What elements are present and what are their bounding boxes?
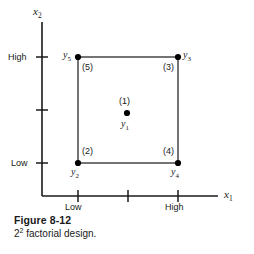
figure-caption: Figure 8-12 22 factorial design. <box>14 214 244 239</box>
response-label-2: y2 <box>71 167 79 181</box>
y-axis-label: x2 <box>33 6 42 21</box>
figure-caption-text: 22 factorial design. <box>14 227 244 239</box>
response-label-1: y1 <box>121 119 129 133</box>
run-label-2: (2) <box>82 146 93 156</box>
data-point-5 <box>75 54 81 60</box>
y-tick-label-high: High <box>8 52 27 62</box>
run-label-1: (1) <box>119 96 130 106</box>
x-tick-label-low: Low <box>65 202 82 212</box>
response-label-4: y4 <box>171 167 179 181</box>
run-label-5: (5) <box>82 62 93 72</box>
data-point-3 <box>175 54 181 60</box>
x-tick-label-high: High <box>165 202 184 212</box>
x-axis-label: x1 <box>224 189 233 204</box>
response-label-3: y3 <box>183 50 191 64</box>
figure-number: Figure 8-12 <box>14 214 244 226</box>
data-point-4 <box>175 160 181 166</box>
data-point-1 <box>124 110 130 116</box>
y-tick-label-low: Low <box>11 158 28 168</box>
data-point-2 <box>75 160 81 166</box>
run-label-3: (3) <box>163 62 174 72</box>
run-label-4: (4) <box>163 146 174 156</box>
response-label-5: y5 <box>63 50 71 64</box>
figure-container: x2 x1 High Low Low High (5) (3) (2) (4) … <box>0 0 254 254</box>
